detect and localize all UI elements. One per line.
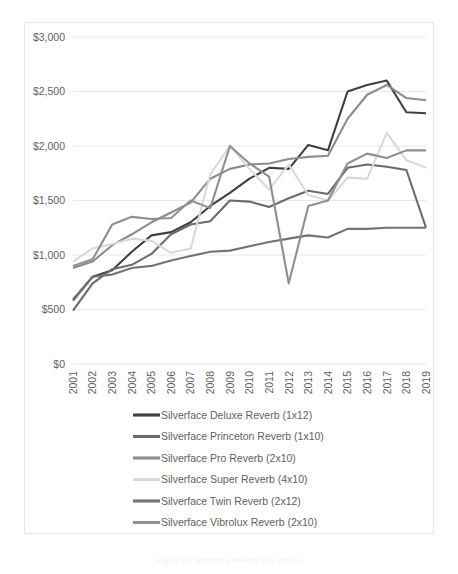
x-axis-tick-label: 2018 xyxy=(400,371,412,395)
x-axis-tick-label: 2003 xyxy=(106,371,118,395)
x-axis-tick-label: 2017 xyxy=(381,371,393,395)
legend-label[interactable]: Silverface Vibrolux Reverb (2x10) xyxy=(161,516,317,528)
x-axis-tick-label: 2007 xyxy=(184,371,196,395)
x-axis-tick-label: 2008 xyxy=(204,371,216,395)
x-axis-tick-label: 2014 xyxy=(322,371,334,395)
legend-label[interactable]: Silverface Twin Reverb (2x12) xyxy=(161,495,301,507)
x-axis-tick-label: 2013 xyxy=(302,371,314,395)
y-axis-tick-label: $500 xyxy=(42,303,66,315)
y-axis-tick-label: $1,000 xyxy=(33,249,65,261)
legend-label[interactable]: Silverface Pro Reverb (2x10) xyxy=(161,452,296,464)
x-axis-tick-label: 2005 xyxy=(145,371,157,395)
x-axis-tick-label: 2004 xyxy=(126,371,138,395)
legend-label[interactable]: Silverface Deluxe Reverb (1x12) xyxy=(161,409,312,421)
series-line xyxy=(73,133,426,262)
x-axis-tick-label: 2002 xyxy=(86,371,98,395)
x-axis-tick-label: 2010 xyxy=(243,371,255,395)
series-lines xyxy=(73,81,426,311)
x-axis-tick-label: 2019 xyxy=(420,371,432,395)
chart-container: $0$500$1,000$1,500$2,000$2,500$3,000 200… xyxy=(24,22,434,534)
y-axis-tick-labels: $0$500$1,000$1,500$2,000$2,500$3,000 xyxy=(33,31,65,370)
y-axis-tick-label: $1,500 xyxy=(33,194,65,206)
y-axis-tick-label: $2,000 xyxy=(33,140,65,152)
x-axis-tick-label: 2006 xyxy=(165,371,177,395)
line-chart: $0$500$1,000$1,500$2,000$2,500$3,000 200… xyxy=(25,23,435,535)
x-axis-tick-label: 2016 xyxy=(361,371,373,395)
x-axis-tick-label: 2009 xyxy=(224,371,236,395)
x-axis-tick-label: 2015 xyxy=(341,371,353,395)
x-axis-tick-label: 2011 xyxy=(263,371,275,394)
gridlines xyxy=(73,37,426,364)
legend-label[interactable]: Silverface Super Reverb (4x10) xyxy=(161,473,307,485)
chart-legend: Silverface Deluxe Reverb (1x12)Silverfac… xyxy=(133,409,324,529)
x-axis-tick-label: 2012 xyxy=(283,371,295,395)
y-axis-tick-label: $2,500 xyxy=(33,85,65,97)
y-axis-tick-label: $3,000 xyxy=(33,31,65,43)
figure-caption: Figure 15. Silverface Reverb amp values xyxy=(24,556,434,565)
x-axis-tick-labels: 2001200220032004200520062007200820092010… xyxy=(67,371,432,395)
y-axis-tick-label: $0 xyxy=(53,358,65,370)
legend-label[interactable]: Silverface Princeton Reverb (1x10) xyxy=(161,430,324,442)
x-axis-tick-label: 2001 xyxy=(67,371,79,395)
